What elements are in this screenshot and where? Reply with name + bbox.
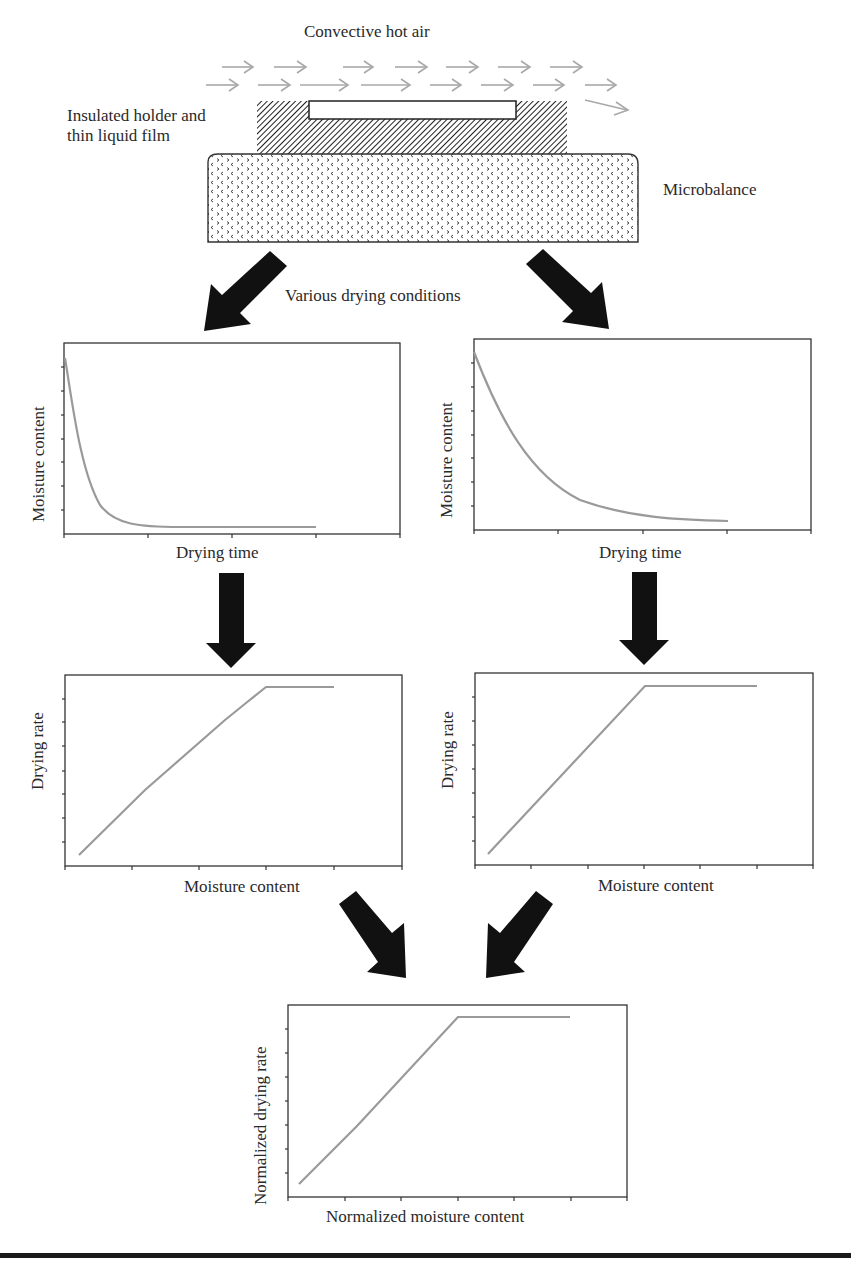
arrow-converge-right bbox=[486, 891, 553, 978]
holder-label: Insulated holder and thin liquid film bbox=[67, 106, 206, 147]
chart-mid-right-xlabel: Moisture content bbox=[598, 876, 714, 896]
arrow-to-top-right bbox=[526, 249, 609, 329]
curve-drying-rate-2 bbox=[488, 686, 757, 854]
curve-normalized-drying-rate bbox=[299, 1017, 570, 1184]
arrow-down-right bbox=[619, 572, 669, 665]
chart-mid-left-ylabel: Drying rate bbox=[29, 712, 46, 790]
microbalance-label: Microbalance bbox=[663, 180, 756, 200]
curve-drying-rate-1 bbox=[79, 687, 334, 855]
chart-top-right bbox=[471, 339, 811, 534]
curve-fast-drying bbox=[65, 358, 316, 527]
chart-top-left bbox=[61, 343, 400, 538]
drying-conditions-label: Various drying conditions bbox=[285, 286, 461, 306]
arrow-to-top-left bbox=[204, 251, 287, 331]
chart-top-right-xlabel: Drying time bbox=[599, 543, 682, 563]
microbalance-body bbox=[208, 154, 638, 242]
chart-bottom bbox=[285, 1005, 627, 1201]
arrow-converge-left bbox=[339, 891, 406, 978]
hot-air-label: Convective hot air bbox=[304, 22, 430, 42]
chart-mid-right bbox=[472, 673, 813, 869]
chart-bottom-ylabel: Normalized drying rate bbox=[252, 1046, 269, 1205]
chart-mid-left-xlabel: Moisture content bbox=[184, 877, 300, 897]
bottom-rule bbox=[0, 1253, 851, 1258]
chart-bottom-xlabel: Normalized moisture content bbox=[326, 1207, 524, 1227]
chart-top-left-ylabel: Moisture content bbox=[30, 406, 47, 522]
liquid-film bbox=[309, 101, 516, 119]
chart-mid-right-ylabel: Drying rate bbox=[439, 711, 456, 789]
chart-top-right-ylabel: Moisture content bbox=[438, 402, 455, 518]
chart-mid-left bbox=[62, 675, 402, 870]
chart-top-left-xlabel: Drying time bbox=[176, 543, 259, 563]
curve-slow-drying bbox=[474, 352, 728, 521]
arrow-down-left bbox=[206, 573, 256, 668]
